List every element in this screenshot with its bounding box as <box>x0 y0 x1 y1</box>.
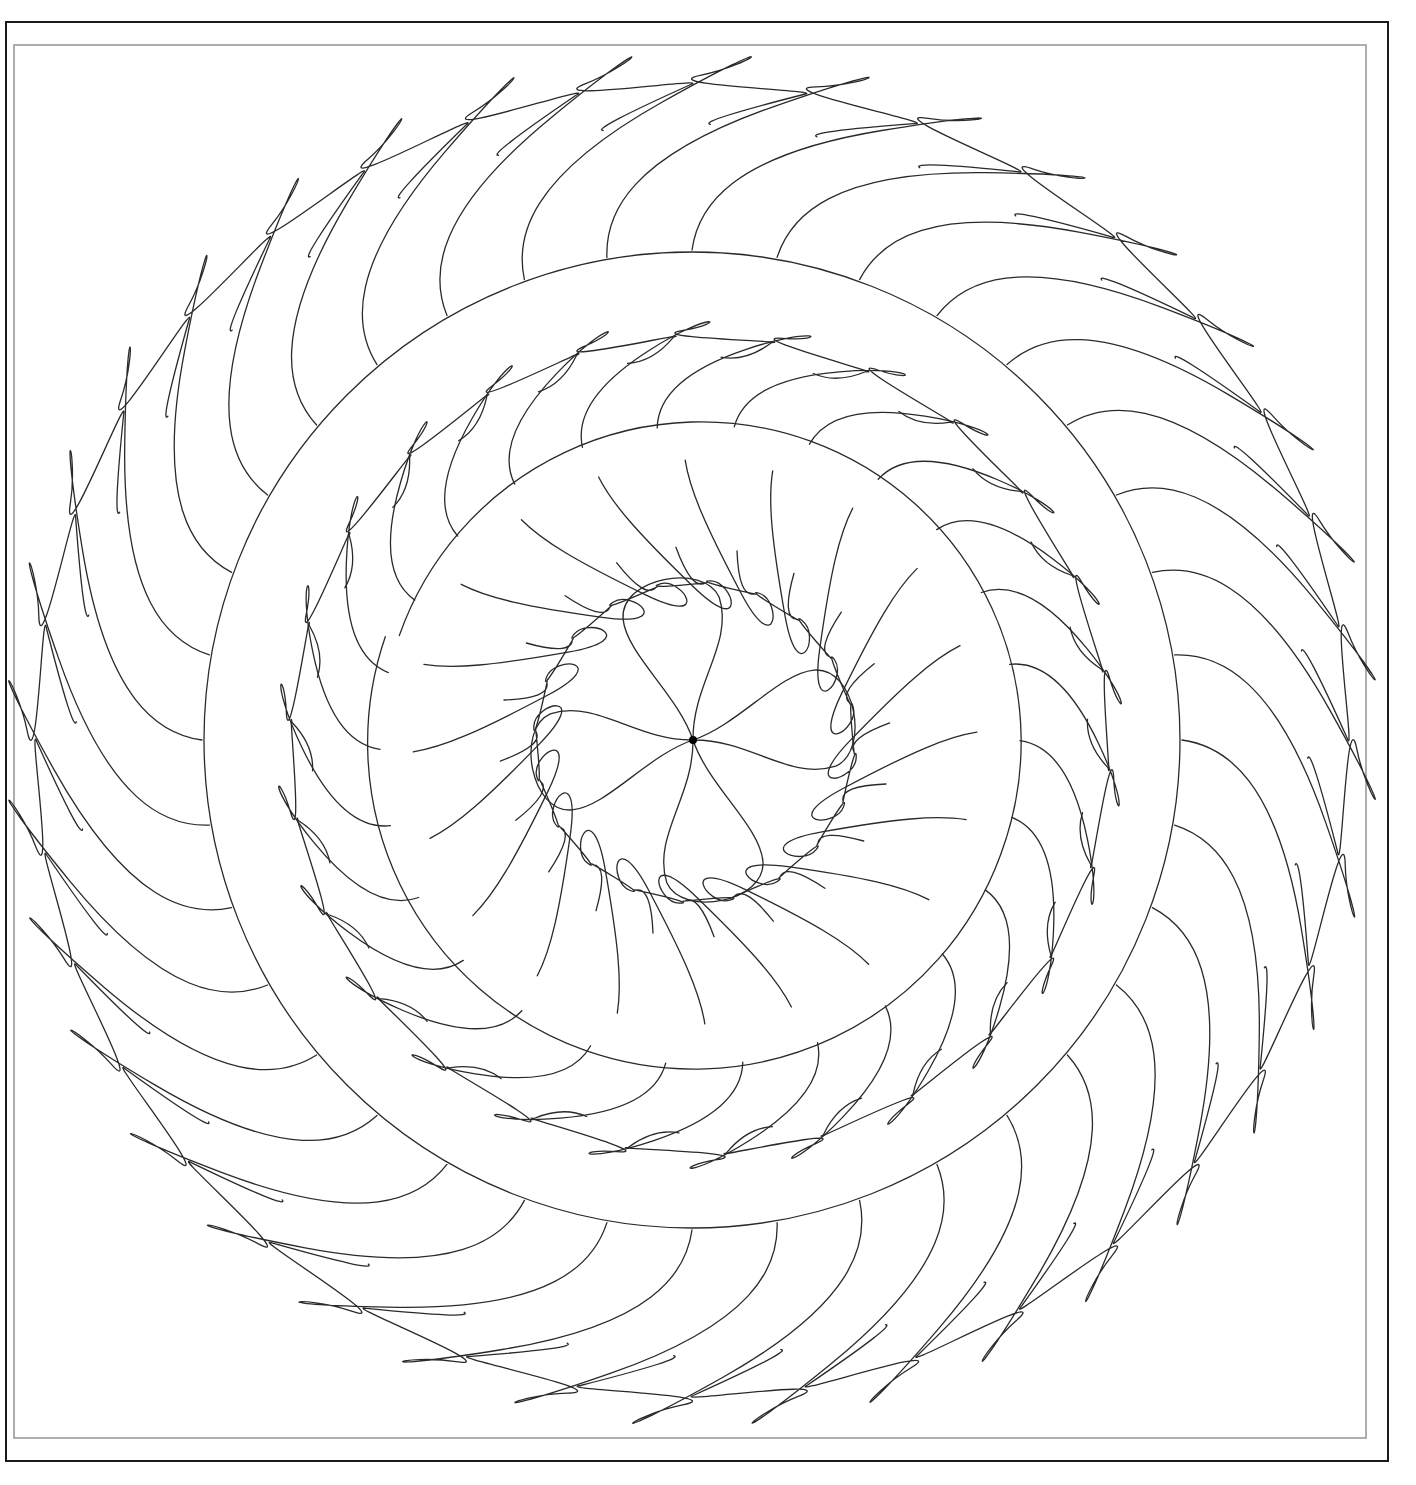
feather <box>522 57 807 280</box>
feather <box>363 1230 692 1362</box>
feather <box>581 322 774 448</box>
feather <box>831 568 917 754</box>
feather <box>911 890 1009 1096</box>
feather <box>1007 340 1313 517</box>
feather <box>577 1200 862 1423</box>
feather <box>860 222 1196 318</box>
feather <box>413 639 578 752</box>
feather <box>119 317 210 655</box>
feather <box>878 461 1074 577</box>
feather <box>657 336 869 428</box>
feather <box>377 997 590 1078</box>
feather <box>549 826 620 1013</box>
feather <box>1152 570 1375 855</box>
feather <box>229 171 365 495</box>
feather <box>989 817 1054 1035</box>
feather <box>599 477 756 609</box>
flower-center-dot <box>689 736 697 744</box>
outer-frame <box>6 22 1388 1461</box>
feather <box>424 596 611 667</box>
feather <box>634 875 791 1007</box>
feather <box>733 865 929 921</box>
feather <box>509 332 676 484</box>
feather <box>279 719 419 900</box>
feather <box>292 119 469 425</box>
feather <box>812 732 977 845</box>
feather <box>70 411 202 740</box>
feather <box>9 625 232 910</box>
feather <box>521 520 707 606</box>
feather <box>281 622 391 826</box>
feather <box>1020 985 1156 1309</box>
feather <box>29 515 209 826</box>
feather <box>724 1006 891 1158</box>
feather <box>1010 664 1120 868</box>
feather <box>445 354 579 536</box>
feather <box>821 954 955 1136</box>
feather <box>779 818 966 889</box>
feather <box>174 236 270 572</box>
quilting-pattern-canvas <box>0 0 1416 1485</box>
feather <box>123 1068 447 1204</box>
feather <box>809 412 1022 493</box>
feather <box>71 964 377 1141</box>
feather <box>473 730 559 916</box>
feather <box>467 1223 778 1403</box>
feather <box>592 859 705 1024</box>
feather <box>777 167 1115 258</box>
feather <box>818 508 874 704</box>
feather <box>937 521 1103 672</box>
feather <box>326 912 522 1028</box>
feather <box>1067 410 1354 627</box>
feather <box>1175 825 1266 1163</box>
feather <box>625 1043 818 1169</box>
feather <box>916 1055 1093 1361</box>
feather <box>390 394 488 600</box>
feather <box>461 563 657 619</box>
feather <box>828 646 960 803</box>
feather <box>30 853 317 1070</box>
feather <box>362 78 579 365</box>
feather <box>692 118 1021 250</box>
flower-petal <box>693 670 855 769</box>
feather <box>771 471 842 658</box>
feather <box>531 1062 743 1154</box>
feather-motif <box>9 57 1375 1423</box>
feather <box>430 681 562 838</box>
feather <box>1182 740 1314 1069</box>
feather <box>981 589 1121 770</box>
feather <box>683 878 869 964</box>
feather <box>685 460 798 625</box>
middle-feather-ring <box>279 322 1122 1169</box>
feather <box>1113 908 1209 1244</box>
feather <box>937 277 1261 413</box>
feather <box>805 1115 1022 1402</box>
feather <box>346 455 411 673</box>
feather <box>188 1161 524 1257</box>
feather <box>1175 655 1355 966</box>
feather <box>607 77 918 257</box>
feather <box>269 1223 607 1314</box>
flower-petal <box>623 578 722 740</box>
